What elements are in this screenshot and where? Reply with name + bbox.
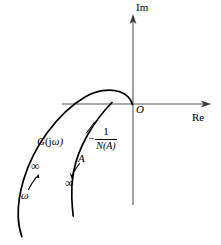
- real-axis-label: Re: [192, 112, 204, 123]
- negative-reciprocal-label: −1N(A): [88, 126, 117, 151]
- origin-label: O: [136, 104, 144, 115]
- g-jw-curve-label: G(jω): [37, 136, 63, 147]
- negative-reciprocal-numerator: 1: [101, 126, 111, 138]
- omega-direction-arrowhead: [34, 174, 39, 180]
- negative-reciprocal-fraction: 1N(A): [95, 126, 116, 151]
- amplitude-direction-label: A: [78, 153, 85, 164]
- negative-reciprocal-denominator: N(A): [95, 141, 116, 152]
- omega-direction-arrow-shaft: [29, 178, 37, 190]
- negative-reciprocal-minus-sign: −: [88, 133, 94, 144]
- nyquist-describing-function-figure: Im Re O G(jω) A ω ∞ ∞ −1N(A): [0, 0, 221, 245]
- g-jw-infinity-label: ∞: [31, 160, 40, 172]
- g-jw-label-g: G: [37, 135, 45, 147]
- omega-direction-label: ω: [21, 190, 29, 201]
- g-jw-label-paren-j: (j: [45, 135, 52, 147]
- negative-reciprocal-infinity-label: ∞: [65, 177, 74, 189]
- g-jw-label-omega: ω): [52, 135, 63, 147]
- imaginary-axis-label: Im: [136, 2, 148, 13]
- figure-canvas: [0, 0, 221, 245]
- omega-direction-arrow-group: [29, 174, 40, 190]
